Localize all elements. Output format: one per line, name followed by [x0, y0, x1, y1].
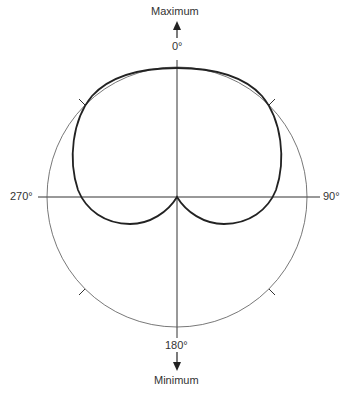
angle-90-label: 90° — [323, 190, 340, 202]
angle-180-label: 180° — [165, 339, 188, 351]
max-arrow-head — [173, 21, 181, 30]
minimum-label: Minimum — [154, 374, 199, 386]
angle-0-label: 0° — [172, 40, 183, 52]
tick-135 — [269, 289, 275, 295]
angle-270-label: 270° — [10, 190, 33, 202]
tick-45 — [269, 99, 275, 105]
tick-225 — [79, 289, 85, 295]
tick-315 — [79, 99, 85, 105]
maximum-label: Maximum — [151, 5, 199, 17]
min-arrow-head — [173, 362, 181, 371]
